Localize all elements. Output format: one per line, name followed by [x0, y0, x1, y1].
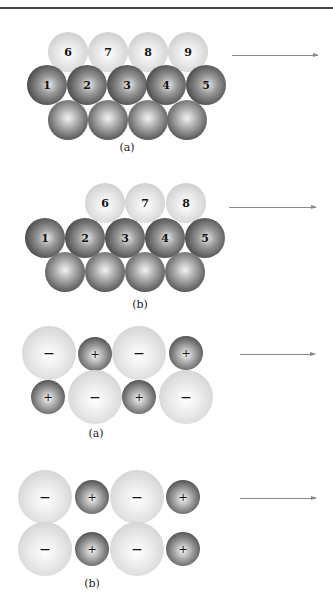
atom-sphere [165, 252, 205, 292]
figure-label: (a) [88, 427, 103, 440]
anion-sphere: − [18, 470, 72, 524]
anion-sphere: − [110, 470, 164, 524]
anion-sphere: − [68, 370, 122, 424]
anion-sphere: − [159, 370, 213, 424]
figure-label: (b) [84, 577, 100, 590]
atom-sphere [88, 100, 128, 140]
cation-sphere: + [122, 380, 156, 414]
atom-sphere: 4 [146, 65, 186, 105]
anion-sphere: − [112, 326, 166, 380]
force-arrow-icon [240, 498, 316, 499]
top-border-line [0, 7, 333, 9]
cation-sphere: + [166, 532, 200, 566]
atom-sphere: 2 [67, 65, 107, 105]
atom-sphere [167, 100, 207, 140]
atom-sphere: 7 [125, 183, 165, 223]
force-arrow-icon [229, 207, 316, 208]
atom-sphere: 3 [107, 65, 147, 105]
atom-sphere [125, 252, 165, 292]
anion-sphere: − [18, 522, 72, 576]
cation-sphere: + [169, 336, 203, 370]
figure-label: (b) [132, 298, 148, 311]
cation-sphere: + [75, 532, 109, 566]
cation-sphere: + [31, 380, 65, 414]
anion-sphere: − [22, 326, 76, 380]
atom-sphere [48, 100, 88, 140]
atom-sphere [45, 252, 85, 292]
cation-sphere: + [166, 480, 200, 514]
atom-sphere: 1 [27, 65, 67, 105]
force-arrow-icon [240, 354, 315, 355]
atom-sphere: 5 [186, 65, 226, 105]
atom-sphere: 6 [85, 183, 125, 223]
cation-sphere: + [78, 337, 112, 371]
figure-label: (a) [119, 141, 134, 154]
anion-sphere: − [110, 522, 164, 576]
cation-sphere: + [75, 480, 109, 514]
atom-sphere [85, 252, 125, 292]
force-arrow-icon [232, 55, 318, 56]
atom-sphere: 8 [166, 183, 206, 223]
atom-sphere [128, 100, 168, 140]
